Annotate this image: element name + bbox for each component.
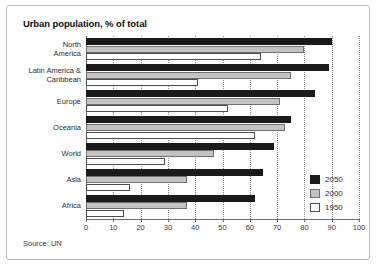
x-tick-90 [332, 219, 333, 222]
category-label: Asia [0, 175, 81, 184]
bar-1950 [86, 210, 124, 217]
bar-2000 [86, 46, 304, 53]
bar-2000 [86, 124, 285, 131]
x-tick-20 [141, 219, 142, 222]
category-label: Oceania [0, 123, 81, 132]
x-tick-50 [223, 219, 224, 222]
bar-1950 [86, 105, 228, 112]
x-tick-0 [86, 219, 87, 222]
x-tick-label-10: 10 [109, 223, 117, 232]
bar-group [86, 38, 359, 60]
x-tick-label-30: 30 [164, 223, 172, 232]
category-label: Latin America &Caribbean [0, 66, 81, 84]
bar-2000 [86, 150, 214, 157]
x-tick-60 [250, 219, 251, 222]
bar-1950 [86, 53, 261, 60]
bar-1950 [86, 132, 255, 139]
legend-item-2050: 2050 [310, 172, 368, 186]
bar-1950 [86, 158, 165, 165]
bar-2000 [86, 72, 291, 79]
source-note: Source: UN [23, 239, 62, 248]
legend-item-1950: 1950 [310, 200, 368, 214]
bar-2050 [86, 195, 255, 202]
legend-swatch-2050 [310, 175, 320, 184]
chart-legend: 205020001950 [310, 172, 368, 214]
x-tick-100 [359, 219, 360, 222]
bar-group [86, 64, 359, 86]
legend-item-2000: 2000 [310, 186, 368, 200]
legend-swatch-2000 [310, 189, 320, 198]
x-tick-label-40: 40 [191, 223, 199, 232]
x-tick-40 [195, 219, 196, 222]
x-tick-label-20: 20 [136, 223, 144, 232]
bar-2050 [86, 38, 332, 45]
bar-2000 [86, 176, 187, 183]
bar-2050 [86, 116, 291, 123]
x-tick-label-90: 90 [328, 223, 336, 232]
category-label: World [0, 149, 81, 158]
bar-2050 [86, 143, 274, 150]
bar-group [86, 116, 359, 138]
x-tick-label-0: 0 [84, 223, 88, 232]
x-tick-label-80: 80 [300, 223, 308, 232]
x-tick-30 [168, 219, 169, 222]
bar-2050 [86, 169, 263, 176]
legend-label-2000: 2000 [325, 189, 343, 198]
bar-2000 [86, 202, 187, 209]
bar-group [86, 143, 359, 165]
page-title: Urban population, % of total [23, 18, 147, 29]
x-tick-10 [113, 219, 114, 222]
bar-2000 [86, 98, 280, 105]
category-label: Africa [0, 201, 81, 210]
category-label: Europe [0, 97, 81, 106]
bar-1950 [86, 184, 130, 191]
x-tick-label-100: 100 [353, 223, 366, 232]
x-tick-80 [304, 219, 305, 222]
bar-2050 [86, 64, 329, 71]
x-tick-label-60: 60 [246, 223, 254, 232]
legend-label-1950: 1950 [325, 203, 343, 212]
x-tick-70 [277, 219, 278, 222]
category-label: NorthAmerica [0, 40, 81, 58]
x-tick-label-70: 70 [273, 223, 281, 232]
legend-swatch-1950 [310, 203, 320, 212]
chart-panel: Urban population, % of total 01020304050… [6, 5, 370, 260]
x-tick-label-50: 50 [218, 223, 226, 232]
bar-group [86, 90, 359, 112]
bar-1950 [86, 79, 198, 86]
bar-2050 [86, 90, 315, 97]
legend-label-2050: 2050 [325, 175, 343, 184]
